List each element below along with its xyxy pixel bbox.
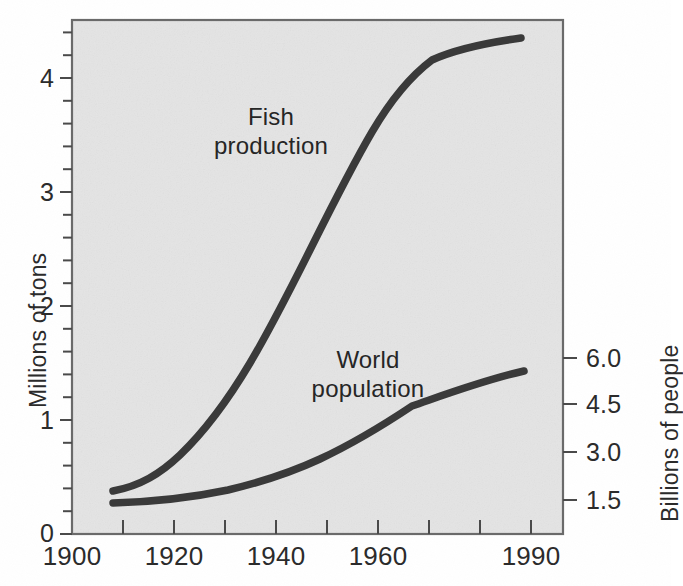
series-annotation-population-line1: World xyxy=(288,345,448,374)
series-annotation-fish-line2: production xyxy=(196,131,346,160)
y2-axis-title: Billions of people xyxy=(659,345,682,523)
x-axis-tick-label-1900: 1900 xyxy=(17,541,127,572)
y-axis-tick-label-1: 1 xyxy=(20,408,54,433)
series-annotation-population-line2: population xyxy=(288,374,448,403)
y-axis-tick-label-3: 3 xyxy=(20,180,54,205)
x-axis-tick-label-1990: 1990 xyxy=(476,541,586,572)
series-annotation-fish-line1: Fish xyxy=(196,102,346,131)
series-annotation-fish-production: Fish production xyxy=(196,102,346,161)
x-axis-tick-label-1940: 1940 xyxy=(221,541,331,572)
series-annotation-world-population: World population xyxy=(288,345,448,404)
y-axis-title: Millions of tons xyxy=(27,253,50,408)
x-axis-tick-label-1960: 1960 xyxy=(323,541,433,572)
y2-axis-tick-label-1-5: 1.5 xyxy=(586,488,646,513)
y2-axis-tick-label-3-0: 3.0 xyxy=(586,440,646,465)
y2-axis-tick-label-4-5: 4.5 xyxy=(586,392,646,417)
x-axis-tick-label-1920: 1920 xyxy=(119,541,229,572)
y2-axis-tick-label-6-0: 6.0 xyxy=(586,346,646,371)
y-axis-tick-label-4: 4 xyxy=(20,66,54,91)
